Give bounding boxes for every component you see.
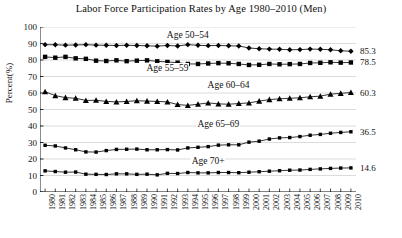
data-point-marker	[176, 148, 179, 151]
data-point-marker	[227, 171, 230, 174]
data-point-marker	[257, 170, 260, 173]
y-axis-title: Percent(%)	[4, 48, 14, 118]
x-tick-label: 1994	[191, 194, 200, 210]
data-point-marker	[94, 150, 97, 153]
data-point-marker	[329, 132, 332, 135]
data-point-marker	[43, 55, 47, 59]
data-point-marker	[287, 47, 292, 52]
y-tick-label: 90	[28, 39, 37, 49]
x-tick-label: 2000	[252, 194, 261, 210]
series-line	[45, 132, 351, 152]
x-tick-label: 1993	[181, 194, 190, 210]
data-point-marker	[114, 58, 118, 62]
data-point-marker	[135, 173, 138, 176]
x-axis-tick-labels: 1980198119821983198419851986198719881989…	[40, 194, 356, 238]
data-point-marker	[42, 42, 47, 47]
data-point-marker	[156, 148, 159, 151]
x-tick-label: 2001	[262, 194, 271, 210]
x-tick-label: 2008	[334, 194, 343, 210]
data-point-marker	[64, 146, 67, 149]
data-point-marker	[349, 60, 353, 64]
data-point-marker	[308, 168, 311, 171]
data-point-marker	[206, 61, 210, 65]
x-tick-label: 1991	[160, 194, 169, 210]
data-point-marker	[63, 55, 67, 59]
data-point-marker	[257, 139, 260, 142]
data-point-marker	[73, 42, 78, 47]
data-point-marker	[145, 148, 148, 151]
data-point-marker	[307, 46, 312, 51]
data-point-marker	[43, 144, 46, 147]
plot-area	[40, 27, 356, 192]
series-5	[43, 166, 352, 176]
x-tick-label: 1983	[79, 194, 88, 210]
data-point-marker	[247, 63, 251, 67]
data-point-marker	[297, 47, 302, 52]
data-point-marker	[298, 62, 302, 66]
data-point-marker	[328, 47, 333, 52]
data-point-marker	[349, 166, 352, 169]
data-point-marker	[319, 133, 322, 136]
data-point-marker	[196, 146, 199, 149]
data-point-marker	[205, 100, 211, 106]
x-tick-label: 1992	[170, 194, 179, 210]
x-tick-label: 1997	[221, 194, 230, 210]
data-point-marker	[288, 169, 291, 172]
x-tick-label: 2005	[303, 194, 312, 210]
data-point-marker	[339, 60, 343, 64]
data-point-marker	[217, 171, 220, 174]
data-point-marker	[196, 62, 200, 66]
data-point-marker	[268, 170, 271, 173]
y-tick-label: 30	[28, 138, 37, 148]
x-tick-label: 2007	[323, 194, 332, 210]
x-tick-label: 2003	[283, 194, 292, 210]
x-tick-label: 1980	[48, 194, 57, 210]
y-tick-label: 50	[28, 105, 37, 115]
data-point-marker	[145, 58, 149, 62]
data-point-marker	[54, 144, 57, 147]
data-point-marker	[277, 47, 282, 52]
x-tick-label: 2002	[272, 194, 281, 210]
data-point-marker	[54, 170, 57, 173]
data-point-marker	[186, 171, 189, 174]
data-point-marker	[64, 171, 67, 174]
data-point-marker	[339, 166, 342, 169]
y-tick-label: 60	[28, 88, 37, 98]
data-point-marker	[104, 59, 108, 63]
data-point-marker	[105, 173, 108, 176]
data-point-marker	[94, 58, 98, 62]
x-tick-label: 2006	[313, 194, 322, 210]
data-point-marker	[135, 58, 139, 62]
data-point-marker	[105, 149, 108, 152]
data-point-marker	[175, 43, 180, 48]
data-point-marker	[237, 62, 241, 66]
y-tick-label: 70	[28, 72, 37, 82]
x-tick-label: 1995	[201, 194, 210, 210]
data-point-marker	[278, 136, 281, 139]
data-point-marker	[247, 171, 250, 174]
x-tick-label: 1987	[119, 194, 128, 210]
y-tick-label: 20	[28, 154, 37, 164]
x-tick-label: 1988	[130, 194, 139, 210]
data-point-marker	[318, 47, 323, 52]
data-point-marker	[125, 172, 128, 175]
data-point-marker	[308, 134, 311, 137]
data-point-marker	[53, 55, 57, 59]
data-point-marker	[216, 61, 220, 65]
x-tick-label: 1990	[150, 194, 159, 210]
x-tick-label: 1998	[232, 194, 241, 210]
series-end-value: 85.3	[360, 46, 376, 56]
x-tick-label: 1986	[109, 194, 118, 210]
chart-svg	[40, 27, 356, 192]
data-point-marker	[227, 143, 230, 146]
data-point-marker	[166, 172, 169, 175]
data-point-marker	[166, 148, 169, 151]
series-end-value: 14.6	[360, 163, 376, 173]
x-tick-label: 2004	[293, 194, 302, 210]
data-point-marker	[74, 170, 77, 173]
data-point-marker	[52, 93, 58, 99]
data-point-marker	[115, 148, 118, 151]
x-tick-label: 1989	[140, 194, 149, 210]
data-point-marker	[186, 146, 189, 149]
data-point-marker	[339, 131, 342, 134]
